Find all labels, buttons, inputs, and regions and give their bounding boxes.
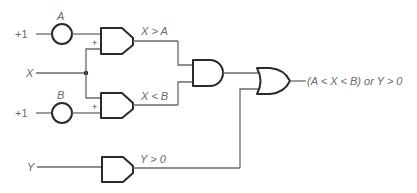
comparator-top-plus: + — [92, 38, 97, 48]
x-label: X — [25, 67, 34, 79]
a-label: A — [56, 10, 64, 22]
or-gate-icon — [257, 68, 290, 94]
wire-to-and-top — [178, 41, 193, 65]
wire-to-or-bottom — [240, 89, 262, 168]
y-gt-0-label: Y > 0 — [140, 153, 167, 165]
b-label: B — [57, 89, 64, 101]
voltage-source-b-icon — [52, 103, 72, 123]
and-gate-icon — [193, 60, 223, 86]
comparator-bottom-plus: + — [92, 102, 97, 112]
output-label: (A < X < B) or Y > 0 — [307, 75, 403, 87]
y-label: Y — [27, 161, 35, 173]
x-gt-a-label: X > A — [140, 25, 168, 37]
comparator-bottom-icon — [101, 93, 133, 118]
comparator-top-icon — [101, 28, 133, 54]
a-source-value: +1 — [15, 28, 28, 40]
b-source-value: +1 — [15, 107, 28, 119]
circuit-diagram: +1 A X + X > A +1 B + X < B Y Y > 0 (A <… — [0, 0, 417, 193]
voltage-source-a-icon — [52, 24, 72, 44]
wire-to-and-bottom — [178, 82, 193, 105]
x-lt-b-label: X < B — [140, 90, 168, 102]
wire-x-split — [86, 49, 101, 98]
comparator-y-icon — [102, 157, 133, 182]
